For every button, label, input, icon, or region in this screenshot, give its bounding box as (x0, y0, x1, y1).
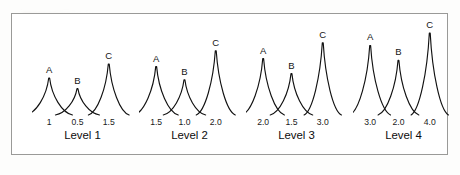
peak-concentration-value: 2.0 (392, 117, 404, 127)
peak-concentration-value: 1.0 (178, 117, 190, 127)
peak-label-b: B (74, 75, 80, 86)
peak-trace (304, 43, 341, 115)
level-caption: Level 3 (246, 129, 347, 141)
peak-plot-area: ABC10.51.5Level 1ABC1.51.02.0Level 2ABC2… (12, 14, 447, 154)
concentration-row: 3.02.04.0 (353, 115, 454, 127)
peak-trace (55, 89, 99, 115)
peak-concentration-value: 1.5 (103, 117, 115, 127)
peak-label-c: C (319, 29, 326, 40)
level-caption: Level 2 (139, 129, 240, 141)
peak-label-c: C (426, 19, 433, 30)
level-caption: Level 4 (353, 129, 454, 141)
peak-concentration-value: 4.0 (424, 117, 436, 127)
peak-concentration-value: 1 (47, 117, 52, 127)
peak-label-c: C (212, 37, 219, 48)
peak-label-a: A (153, 53, 159, 64)
peak-trace-group (246, 14, 347, 119)
peak-concentration-value: 2.0 (210, 117, 222, 127)
level-group: ABC1.51.02.0Level 2 (139, 14, 240, 154)
peak-concentration-value: 3.0 (364, 117, 376, 127)
peak-trace (163, 80, 205, 115)
peak-concentration-value: 2.0 (257, 117, 269, 127)
level-group: ABC2.01.53.0Level 3 (246, 14, 347, 154)
peak-trace-group (353, 14, 454, 119)
concentration-row: 2.01.53.0 (246, 115, 347, 127)
level-group: ABC3.02.04.0Level 4 (353, 14, 454, 154)
peak-label-c: C (105, 50, 112, 61)
peak-label-a: A (260, 45, 266, 56)
peak-concentration-value: 1.5 (285, 117, 297, 127)
figure-root: ABC10.51.5Level 1ABC1.51.02.0Level 2ABC2… (0, 0, 460, 175)
peak-concentration-value: 0.5 (71, 117, 83, 127)
peak-trace (139, 67, 178, 115)
peak-label-a: A (46, 64, 52, 75)
concentration-row: 1.51.02.0 (139, 115, 240, 127)
peak-label-b: B (181, 66, 187, 77)
peak-trace-group (139, 14, 240, 119)
peak-trace (270, 74, 312, 115)
concentration-row: 10.51.5 (32, 115, 133, 127)
peak-label-a: A (367, 31, 373, 42)
peak-trace (88, 64, 129, 115)
peak-trace (411, 33, 448, 115)
peak-trace (196, 51, 235, 115)
peak-label-b: B (288, 60, 294, 71)
peak-concentration-value: 1.5 (150, 117, 162, 127)
peak-trace (353, 45, 391, 115)
level-group: ABC10.51.5Level 1 (32, 14, 133, 154)
level-caption: Level 1 (32, 129, 133, 141)
peak-label-b: B (395, 46, 401, 57)
figure-frame: ABC10.51.5Level 1ABC1.51.02.0Level 2ABC2… (11, 13, 448, 155)
peak-concentration-value: 3.0 (317, 117, 329, 127)
peak-trace (246, 59, 284, 115)
